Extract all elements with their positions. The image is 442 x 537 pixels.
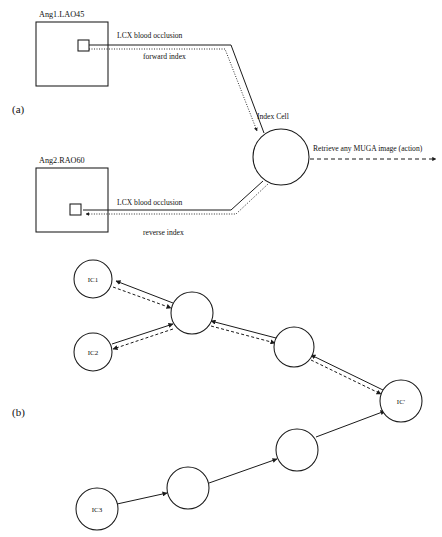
edge-icp-to-mid2-solid xyxy=(311,355,383,390)
forward-index-edge: LCX blood occlusion forward index xyxy=(89,31,264,133)
node-ic3: IC3 xyxy=(76,488,118,530)
panel-a-group: (a) Ang1.LAO45 Ang2.RAO60 LCX blood occl… xyxy=(12,10,436,237)
node-mid3-circle xyxy=(276,429,318,471)
index-cell-node: Index Cell xyxy=(253,112,309,185)
retrieve-action-label: Retrieve any MUGA image (action) xyxy=(313,144,423,153)
edge-ic2-to-mid1-solid xyxy=(112,324,173,344)
node-mid1-circle xyxy=(171,292,213,334)
node-ic2: IC2 xyxy=(74,333,112,371)
node-mid1 xyxy=(171,292,213,334)
node-mid2-circle xyxy=(274,327,314,367)
image-box-ang2: Ang2.RAO60 xyxy=(36,156,108,232)
panel-label-a: (a) xyxy=(12,103,25,116)
edge-mid1-to-ic1-dashed xyxy=(113,287,171,308)
image-box-ang2-label: Ang2.RAO60 xyxy=(39,156,85,165)
image-box-ang2-frame xyxy=(36,168,108,232)
figure-container: (a) Ang1.LAO45 Ang2.RAO60 LCX blood occl… xyxy=(0,0,442,537)
node-ic2-label: IC2 xyxy=(88,349,99,357)
reverse-index-solid-label: LCX blood occlusion xyxy=(117,198,183,207)
node-ic3-label: IC3 xyxy=(92,506,103,514)
node-mid3 xyxy=(276,429,318,471)
forward-index-dotted-label: forward index xyxy=(143,52,186,61)
image-box-ang2-region xyxy=(70,204,81,215)
edge-ic3-to-mid4 xyxy=(117,493,167,504)
edge-mid4-to-mid3 xyxy=(209,459,277,483)
index-cell-label: Index Cell xyxy=(257,112,289,121)
edge-mid3-to-icp xyxy=(316,411,385,437)
image-box-ang1: Ang1.LAO45 xyxy=(36,10,108,86)
node-icp-label: IC' xyxy=(397,398,405,406)
forward-index-solid-label: LCX blood occlusion xyxy=(117,31,183,40)
node-ic1-label: IC1 xyxy=(88,276,99,284)
forward-index-dotted-line xyxy=(89,49,257,131)
node-mid4 xyxy=(167,467,209,509)
edge-mid1-to-mid2-dashed xyxy=(211,326,275,343)
edge-mid2-to-mid1-solid xyxy=(211,321,276,338)
panel-b-group: (b) IC1 xyxy=(12,260,422,530)
diagram-canvas: (a) Ang1.LAO45 Ang2.RAO60 LCX blood occl… xyxy=(0,0,442,537)
edge-mid1-to-ic2-dashed xyxy=(113,329,173,349)
image-box-ang1-label: Ang1.LAO45 xyxy=(39,10,84,19)
reverse-index-edge: LCX blood occlusion reverse index xyxy=(83,181,268,237)
reverse-index-dotted-label: reverse index xyxy=(143,228,184,237)
image-box-ang1-frame xyxy=(36,22,108,86)
node-mid2 xyxy=(274,327,314,367)
image-box-ang1-region xyxy=(78,40,89,51)
retrieve-action-edge: Retrieve any MUGA image (action) xyxy=(310,144,436,159)
edge-mid2-to-icp-dashed xyxy=(311,360,381,394)
node-icp: IC' xyxy=(380,380,422,422)
panel-label-b: (b) xyxy=(12,406,25,419)
node-ic1: IC1 xyxy=(74,260,112,298)
index-cell-circle xyxy=(253,129,309,185)
node-mid4-circle xyxy=(167,467,209,509)
edge-mid1-to-ic1-solid xyxy=(116,281,173,303)
